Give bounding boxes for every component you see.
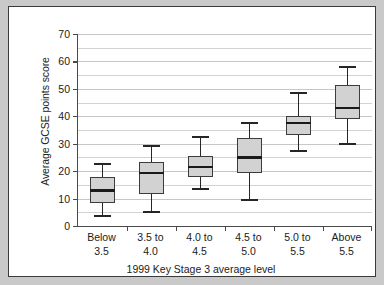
y-axis-tick-label: 70 xyxy=(58,28,70,40)
whisker-cap-max xyxy=(94,163,111,165)
median-line xyxy=(90,189,115,191)
chart-figure: Average GCSE points score 01020304050607… xyxy=(0,0,384,285)
box-iqr xyxy=(335,85,360,119)
whisker-upper xyxy=(102,164,103,176)
x-axis-tick-label: Above5.5 xyxy=(322,231,371,258)
box-plot-group xyxy=(274,34,323,226)
y-axis-tick-label: 30 xyxy=(58,138,70,150)
plot-area: 010203040506070 xyxy=(77,34,372,227)
x-axis-tick-label-line: 4.0 xyxy=(126,245,175,259)
x-axis-tick-labels: Below3.53.5 to4.04.0 to4.54.5 to5.05.0 t… xyxy=(77,231,372,263)
box-iqr xyxy=(139,162,164,195)
x-axis-tick-label: 5.0 to5.5 xyxy=(273,231,322,258)
whisker-upper xyxy=(151,146,152,161)
whisker-cap-min xyxy=(339,143,356,145)
x-axis-tick-label: Below3.5 xyxy=(77,231,126,258)
whisker-lower xyxy=(347,119,348,144)
x-axis-tick-label: 4.0 to4.5 xyxy=(175,231,224,258)
median-line xyxy=(188,166,213,168)
whisker-cap-max xyxy=(192,136,209,138)
whisker-cap-min xyxy=(192,188,209,190)
whisker-cap-min xyxy=(143,211,160,213)
whisker-upper xyxy=(298,93,299,116)
x-axis-tick-label-line: 5.5 xyxy=(322,245,371,259)
median-line xyxy=(335,107,360,109)
whisker-upper xyxy=(200,137,201,156)
x-axis-title: 1999 Key Stage 3 average level xyxy=(17,263,384,275)
box-plot-group xyxy=(225,34,274,226)
x-axis-tick-label-line: 3.5 to xyxy=(126,231,175,245)
x-axis-tick-label-line: 5.0 xyxy=(224,245,273,259)
whisker-lower xyxy=(298,135,299,150)
box-plot-group xyxy=(323,34,372,226)
whisker-lower xyxy=(102,203,103,217)
x-axis-tick-label-line: 4.0 to xyxy=(175,231,224,245)
x-axis-tick-label-line: 3.5 xyxy=(77,245,126,259)
x-axis-tick-label-line: 4.5 to xyxy=(224,231,273,245)
x-axis-tick-label-line: Above xyxy=(322,231,371,245)
median-line xyxy=(286,122,311,124)
median-line xyxy=(139,172,164,174)
whisker-upper xyxy=(347,67,348,85)
x-axis-tick-label: 4.5 to5.0 xyxy=(224,231,273,258)
whisker-cap-max xyxy=(241,122,258,124)
x-axis-tick-label-line: 5.5 xyxy=(273,245,322,259)
y-axis-tick-label: 20 xyxy=(58,165,70,177)
whisker-cap-max xyxy=(290,92,307,94)
x-axis-tick-label-line: 5.0 to xyxy=(273,231,322,245)
box-plot-group xyxy=(78,34,127,226)
box-iqr xyxy=(237,138,262,172)
y-axis-tick-label: 60 xyxy=(58,55,70,67)
whisker-cap-max xyxy=(143,145,160,147)
y-axis-tick-label: 40 xyxy=(58,110,70,122)
chart-panel: Average GCSE points score 01020304050607… xyxy=(8,6,376,277)
whisker-lower xyxy=(249,173,250,200)
whisker-cap-min xyxy=(290,150,307,152)
box-iqr xyxy=(286,116,311,135)
x-axis-tick-label-line: Below xyxy=(77,231,126,245)
whisker-cap-max xyxy=(339,66,356,68)
y-axis-tick-label: 10 xyxy=(58,193,70,205)
whisker-cap-min xyxy=(241,199,258,201)
box-plot-group xyxy=(127,34,176,226)
whisker-lower xyxy=(151,194,152,212)
whisker-upper xyxy=(249,123,250,138)
box-plot-group xyxy=(176,34,225,226)
y-axis-tick-label: 50 xyxy=(58,83,70,95)
whisker-cap-min xyxy=(94,215,111,217)
x-axis-tick-label: 3.5 to4.0 xyxy=(126,231,175,258)
median-line xyxy=(237,156,262,158)
x-axis-tick-label-line: 4.5 xyxy=(175,245,224,259)
y-axis-tick-label: 0 xyxy=(64,220,70,232)
y-axis-tick xyxy=(73,226,78,227)
